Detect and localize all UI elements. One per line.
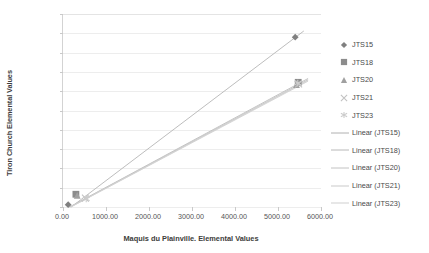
legend-label: JTS15 <box>350 40 373 49</box>
legend-line-icon <box>330 162 350 174</box>
x-tick-mark <box>278 207 279 211</box>
legend-label: Linear (JTS20) <box>350 163 400 172</box>
series-layer <box>63 14 321 207</box>
legend-label: Linear (JTS21) <box>350 181 400 190</box>
legend-item[interactable]: Linear (JTS15) <box>330 124 428 142</box>
x-tick-mark <box>192 207 193 211</box>
legend-item[interactable]: Linear (JTS21) <box>330 177 428 195</box>
legend-label: Linear (JTS18) <box>350 146 400 155</box>
y-axis-title: Tiron Church Elemental Values <box>2 38 18 208</box>
x-tick-mark <box>106 207 107 211</box>
legend-x-cross-icon <box>330 92 350 104</box>
legend-item[interactable]: JTS15 <box>330 36 428 54</box>
y-axis-title-text: Tiron Church Elemental Values <box>2 38 18 208</box>
legend-square-icon <box>330 56 350 68</box>
legend-label: JTS21 <box>350 93 373 102</box>
x-tick-mark <box>321 207 322 211</box>
legend-label: JTS18 <box>350 58 373 67</box>
legend-asterisk-icon <box>330 109 350 121</box>
plot-area <box>62 14 321 208</box>
legend-line-icon <box>330 197 350 209</box>
legend-item[interactable]: JTS23 <box>330 106 428 124</box>
x-tick-mark <box>235 207 236 211</box>
legend-label: Linear (JTS23) <box>350 199 400 208</box>
chart-legend: JTS15JTS18JTS20JTS21JTS23Linear (JTS15)L… <box>330 36 428 212</box>
legend-label: Linear (JTS15) <box>350 128 400 137</box>
legend-item[interactable]: JTS20 <box>330 71 428 89</box>
trendline <box>71 31 304 207</box>
legend-item[interactable]: Linear (JTS23) <box>330 194 428 212</box>
x-axis-title: Maquis du Plainville. Elemental Values <box>62 234 320 243</box>
legend-line-icon <box>330 127 350 139</box>
trendline <box>71 81 308 207</box>
scatter-chart: Tiron Church Elemental Values 0.00500.00… <box>0 0 429 253</box>
x-tick-mark <box>63 207 64 211</box>
legend-item[interactable]: JTS18 <box>330 54 428 72</box>
x-tick-mark <box>149 207 150 211</box>
legend-triangle-icon <box>330 74 350 86</box>
legend-line-icon <box>330 180 350 192</box>
x-tick-label: 6000.00 <box>292 212 348 221</box>
legend-item[interactable]: Linear (JTS20) <box>330 159 428 177</box>
chart-title <box>0 0 340 2</box>
legend-label: JTS20 <box>350 75 373 84</box>
legend-item[interactable]: Linear (JTS18) <box>330 142 428 160</box>
legend-line-icon <box>330 144 350 156</box>
legend-item[interactable]: JTS21 <box>330 89 428 107</box>
legend-label: JTS23 <box>350 111 373 120</box>
legend-diamond-icon <box>330 39 350 51</box>
